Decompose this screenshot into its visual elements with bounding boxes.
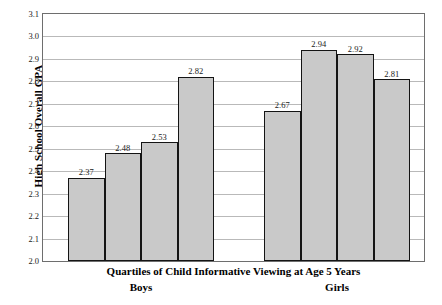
y-tick-label: 2.9 xyxy=(5,55,39,64)
x-axis-title: Quartiles of Child Informative Viewing a… xyxy=(42,265,425,277)
y-tick-label: 3.1 xyxy=(5,10,39,19)
bar-girls-q3: 2.92 xyxy=(337,54,374,261)
y-tick-label: 2.2 xyxy=(5,212,39,221)
bar-value-label: 2.94 xyxy=(311,40,326,49)
bar-value-label: 2.82 xyxy=(188,67,203,76)
bar-girls-q1: 2.67 xyxy=(264,111,301,261)
y-tick-label: 2.6 xyxy=(5,122,39,131)
bar-value-label: 2.81 xyxy=(384,70,399,79)
plot-area: 2.02.12.22.32.42.52.62.72.82.93.03.12.37… xyxy=(42,13,425,262)
y-tick-label: 2.3 xyxy=(5,189,39,198)
y-tick-label: 2.4 xyxy=(5,167,39,176)
bar-girls-q4: 2.81 xyxy=(374,79,411,261)
bar-boys-q4: 2.82 xyxy=(178,77,215,261)
bar-chart-figure: High School Overall GPA 2.02.12.22.32.42… xyxy=(0,0,442,305)
bar-boys-q3: 2.53 xyxy=(141,142,178,261)
bar-value-label: 2.67 xyxy=(275,101,290,110)
group-label-boys: Boys xyxy=(130,281,153,293)
y-tick-label: 2.7 xyxy=(5,100,39,109)
bar-value-label: 2.37 xyxy=(79,168,94,177)
group-label-girls: Girls xyxy=(325,281,349,293)
bar-value-label: 2.92 xyxy=(348,45,363,54)
plot-inner: 2.02.12.22.32.42.52.62.72.82.93.03.12.37… xyxy=(43,14,424,261)
bar-girls-q2: 2.94 xyxy=(301,50,338,261)
y-tick-label: 2.0 xyxy=(5,257,39,266)
bar-value-label: 2.53 xyxy=(152,133,167,142)
bar-boys-q2: 2.48 xyxy=(105,153,142,261)
y-tick-label: 2.8 xyxy=(5,77,39,86)
y-tick-label: 2.1 xyxy=(5,234,39,243)
y-tick-label: 3.0 xyxy=(5,32,39,41)
bar-value-label: 2.48 xyxy=(115,144,130,153)
bar-boys-q1: 2.37 xyxy=(68,178,105,261)
y-tick-label: 2.5 xyxy=(5,144,39,153)
gridline xyxy=(43,36,424,37)
